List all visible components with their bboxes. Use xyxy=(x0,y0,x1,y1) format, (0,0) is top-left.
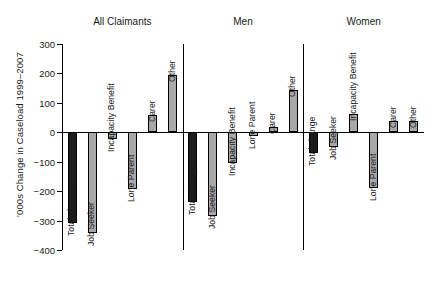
plot-area: 3002001000−100−200−300−400Total changeJo… xyxy=(62,44,424,250)
y-axis-tick-mark xyxy=(57,132,62,133)
bar-label: Incapacity Benefit xyxy=(106,83,116,152)
bar-label: Lone Parent xyxy=(247,102,257,149)
bar-label: Lone Parent xyxy=(368,154,378,201)
bar-label: Other xyxy=(408,106,418,128)
panel-title-men: Men xyxy=(233,16,252,27)
bar-label: Carer xyxy=(388,107,398,129)
y-axis-tick-mark xyxy=(57,191,62,192)
y-axis-tick-label: 300 xyxy=(39,39,55,50)
y-axis-tick-label: 200 xyxy=(39,68,55,79)
y-axis-tick-mark xyxy=(57,162,62,163)
chart-figure: '000s Change in Caseload 1999–2007 30020… xyxy=(0,0,436,299)
bar-label: Total change xyxy=(307,117,317,166)
y-axis-tick-label: −400 xyxy=(34,245,55,256)
y-axis-tick-label: −200 xyxy=(34,186,55,197)
panel-title-women: Women xyxy=(347,16,381,27)
bar-label: Carer xyxy=(147,100,157,122)
y-axis-title: '000s Change in Caseload 1999–2007 xyxy=(14,20,25,250)
y-axis-tick-label: −300 xyxy=(34,215,55,226)
panel-divider xyxy=(183,44,184,250)
bar-label: Job Seeker xyxy=(86,202,96,246)
y-axis-line xyxy=(62,44,63,250)
y-axis-tick-mark xyxy=(57,44,62,45)
bar-label: Total change xyxy=(187,166,197,215)
y-axis-tick-mark xyxy=(57,221,62,222)
y-axis-tick-label: 0 xyxy=(50,127,55,138)
bar-label: Total change xyxy=(66,187,76,236)
bar-all-claimants-other xyxy=(168,75,177,132)
bar-label: Incapacity Benefit xyxy=(227,107,237,176)
y-axis-tick-label: −100 xyxy=(34,156,55,167)
y-axis-tick-mark xyxy=(57,73,62,74)
panel-divider xyxy=(303,44,304,250)
bar-label: Other xyxy=(287,75,297,97)
y-axis-tick-label: 100 xyxy=(39,97,55,108)
bar-label: Job Seeker xyxy=(328,116,338,160)
bar-label: Incapacity Benefit xyxy=(348,52,358,121)
bar-label: Job Seeker xyxy=(207,185,217,229)
panel-title-all-claimants: All Claimants xyxy=(93,16,151,27)
y-axis-tick-mark xyxy=(57,103,62,104)
bar-label: Other xyxy=(167,60,177,82)
y-axis-tick-mark xyxy=(57,250,62,251)
bar-label: Lone Parent xyxy=(126,155,136,202)
bar-label: Carer xyxy=(267,112,277,134)
